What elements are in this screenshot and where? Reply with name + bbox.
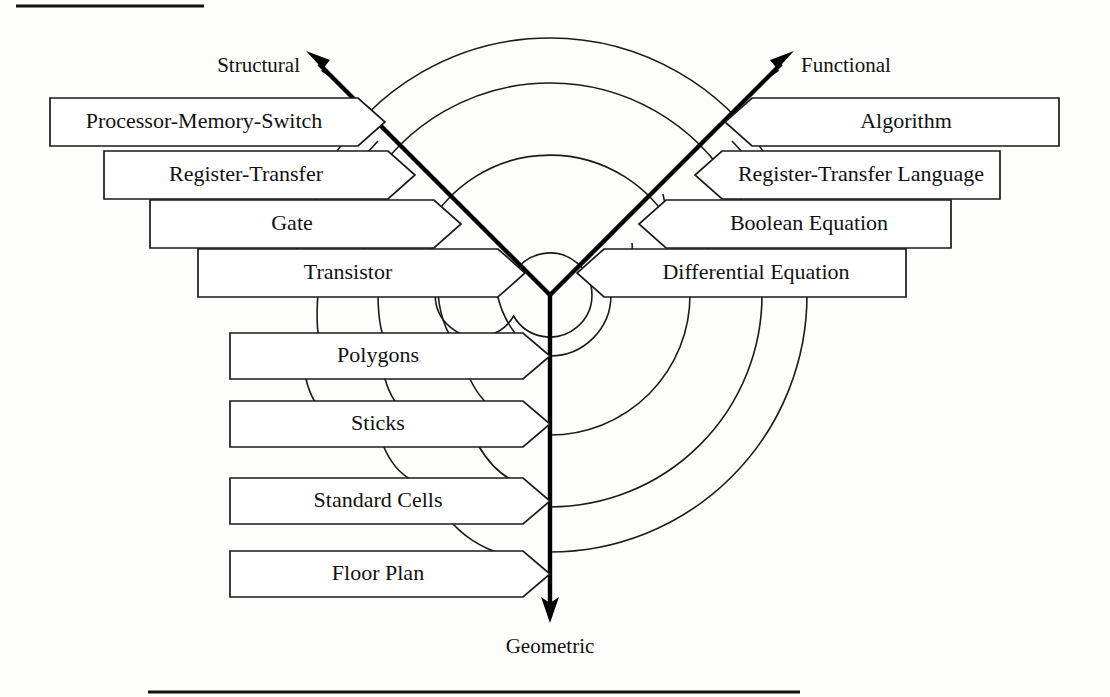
structural-arrowhead — [306, 51, 330, 77]
arc-ring-2-upper — [366, 83, 733, 189]
box-differential-equation[interactable]: Differential Equation — [577, 249, 906, 297]
box-transistor[interactable]: Transistor — [198, 249, 525, 297]
box-standard-cells[interactable]: Standard Cells — [230, 478, 550, 524]
box-label: Boolean Equation — [730, 210, 888, 235]
box-label: Transistor — [304, 259, 393, 284]
box-register-transfer-language[interactable]: Register-Transfer Language — [695, 151, 1000, 199]
box-label: Sticks — [351, 410, 405, 435]
box-label: Floor Plan — [332, 560, 424, 585]
box-register-transfer[interactable]: Register-Transfer — [104, 151, 415, 199]
box-label: Algorithm — [860, 108, 952, 133]
geometric-axis-label: Geometric — [506, 634, 595, 658]
link-sticks-standardcells-a — [383, 445, 412, 480]
box-floor-plan[interactable]: Floor Plan — [230, 551, 550, 597]
box-label: Standard Cells — [314, 487, 443, 512]
geometric-boxes: Polygons Sticks Standard Cells Floor Pla… — [230, 333, 550, 597]
box-label: Differential Equation — [662, 259, 849, 284]
y-chart-figure: Processor-Memory-Switch Register-Transfe… — [0, 0, 1110, 697]
box-label: Register-Transfer — [169, 161, 324, 186]
arc-ring-1-lower-right — [550, 295, 807, 552]
arc-ring-2-lower-right — [550, 295, 762, 507]
box-gate[interactable]: Gate — [150, 200, 461, 248]
structural-axis-label: Structural — [217, 53, 300, 77]
arc-ring-3-lower-right — [550, 295, 690, 435]
box-sticks[interactable]: Sticks — [230, 401, 550, 447]
arc-ring-4-lower-right — [550, 295, 611, 356]
box-label: Processor-Memory-Switch — [86, 108, 323, 133]
box-algorithm[interactable]: Algorithm — [725, 98, 1059, 146]
arc-ring-3-upper — [429, 155, 671, 225]
functional-axis-label: Functional — [801, 53, 891, 77]
box-polygons[interactable]: Polygons — [230, 333, 550, 379]
y-chart-svg: Processor-Memory-Switch Register-Transfe… — [0, 0, 1110, 697]
box-processor-memory-switch[interactable]: Processor-Memory-Switch — [50, 98, 385, 146]
link-sticks-standardcells-b — [478, 445, 512, 480]
box-label: Gate — [271, 210, 313, 235]
arc-ring-1-upper — [327, 38, 772, 167]
box-label: Polygons — [337, 342, 419, 367]
box-boolean-equation[interactable]: Boolean Equation — [639, 200, 951, 248]
box-label: Register-Transfer Language — [738, 161, 984, 186]
